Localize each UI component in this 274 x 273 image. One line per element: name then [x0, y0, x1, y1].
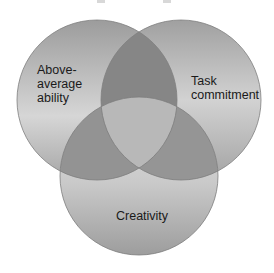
cropped-text-fragment: [97, 0, 105, 3]
venn-diagram: [0, 0, 274, 273]
label-task-commitment: Task commitment: [191, 74, 259, 102]
label-creativity: Creativity: [116, 209, 168, 223]
label-above-average-ability: Above- average ability: [37, 63, 82, 105]
cropped-text-fragment: [163, 0, 171, 3]
